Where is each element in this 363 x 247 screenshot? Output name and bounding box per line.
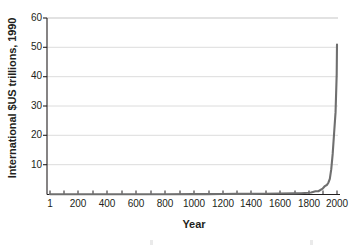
chart-figure: International $US trillions, 1990 60 50 … [0,0,363,247]
data-series-line [50,44,337,194]
x-axis-title: Year [50,218,338,230]
y-axis-line [43,18,47,195]
scan-artifact-right [310,240,313,245]
gridlines [47,18,338,165]
scan-artifact-left [150,240,153,245]
plot-area [0,0,363,247]
